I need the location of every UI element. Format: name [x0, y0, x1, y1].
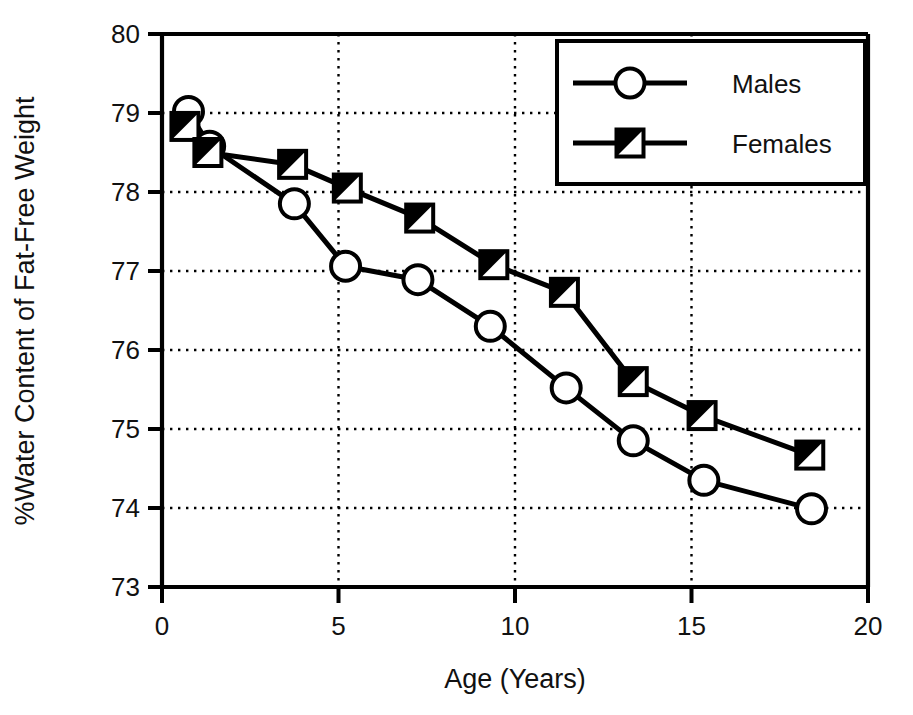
marker-half-filled-square: [194, 139, 221, 166]
legend-label: Females: [732, 129, 832, 159]
legend-label: Males: [732, 69, 801, 99]
chart-figure: 05101520 7374757677787980 Age (Years) %W…: [0, 0, 913, 715]
marker-half-filled-square: [689, 402, 716, 429]
y-tick-label: 77: [111, 256, 140, 286]
marker-half-filled-square: [551, 279, 578, 306]
legend-box: [557, 41, 865, 184]
y-tick-label: 74: [111, 493, 140, 523]
x-tick-label: 20: [854, 611, 883, 641]
marker-half-filled-square: [617, 130, 644, 157]
marker-open-circle: [797, 494, 826, 523]
x-tick-label: 5: [331, 611, 345, 641]
chart-legend: MalesFemales: [557, 41, 865, 184]
x-axis-label: Age (Years): [444, 664, 586, 694]
marker-open-circle: [476, 312, 505, 341]
marker-half-filled-square: [796, 442, 823, 469]
marker-open-circle: [403, 265, 432, 294]
y-tick-label: 78: [111, 177, 140, 207]
marker-half-filled-square: [334, 175, 361, 202]
marker-half-filled-square: [279, 151, 306, 178]
marker-open-circle: [616, 69, 645, 98]
marker-half-filled-square: [406, 205, 433, 232]
marker-open-circle: [619, 426, 648, 455]
y-tick-label: 79: [111, 98, 140, 128]
y-axis-label: %Water Content of Fat-Free Weight: [10, 96, 40, 526]
marker-open-circle: [331, 252, 360, 281]
y-tick-label: 73: [111, 572, 140, 602]
marker-half-filled-square: [620, 368, 647, 395]
marker-half-filled-square: [171, 113, 198, 140]
line-chart: 05101520 7374757677787980 Age (Years) %W…: [0, 0, 913, 715]
x-tick-label: 10: [501, 611, 530, 641]
marker-half-filled-square: [480, 251, 507, 278]
marker-open-circle: [689, 466, 718, 495]
x-tick-label: 0: [155, 611, 169, 641]
marker-open-circle: [280, 189, 309, 218]
y-tick-label: 76: [111, 335, 140, 365]
y-tick-label: 80: [111, 19, 140, 49]
x-tick-label: 15: [677, 611, 706, 641]
y-tick-label: 75: [111, 414, 140, 444]
marker-open-circle: [552, 373, 581, 402]
